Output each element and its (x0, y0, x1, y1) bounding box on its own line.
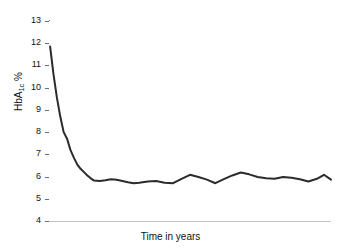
series-line-path (50, 47, 331, 184)
y-axis-title-prefix: HbA (13, 92, 24, 111)
y-tick-label-4: 4 (7, 216, 41, 225)
y-tick-label-6: 6 (7, 172, 41, 181)
gridline-y-4 (49, 221, 331, 222)
series-hba1c (49, 21, 331, 221)
plot-area (49, 21, 331, 221)
hba1c-line-chart: 13121110987654 HbA1c % Time in years (0, 0, 341, 252)
y-axis-title: HbA1c % (13, 22, 24, 162)
y-tick-4 (45, 221, 49, 222)
y-tick-label-5: 5 (7, 194, 41, 203)
y-axis-title-suffix: % (13, 72, 24, 84)
x-axis-title: Time in years (0, 231, 341, 242)
y-axis-title-subscript: 1c (17, 84, 26, 92)
